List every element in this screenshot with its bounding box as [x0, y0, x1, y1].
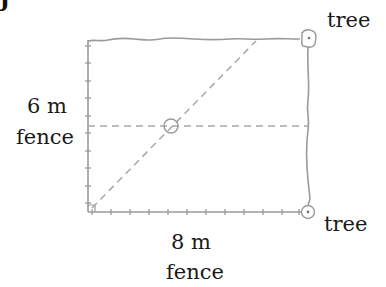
- bottom-measure-label: 8 m: [171, 232, 211, 253]
- top-fence-line: [88, 38, 300, 41]
- fence-diagram: J: [0, 0, 386, 287]
- left-fence-label: fence: [16, 127, 74, 148]
- tree-top-icon: [302, 30, 316, 47]
- tree-bottom-icon: [302, 206, 315, 219]
- tree-bottom-label: tree: [324, 214, 367, 235]
- tree-top-label: tree: [327, 10, 370, 31]
- bottom-fence-label: fence: [166, 262, 224, 283]
- diagonal-dashed-line: [92, 41, 256, 208]
- left-measure-label: 6 m: [27, 96, 67, 117]
